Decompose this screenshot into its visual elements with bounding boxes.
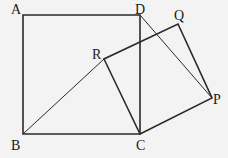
label-c: C [136, 138, 145, 153]
label-p: P [213, 92, 221, 107]
geometry-diagram: A D Q R P B C [0, 0, 228, 158]
segment-dp [140, 15, 212, 98]
label-b: B [11, 138, 20, 153]
segment-br [23, 59, 104, 134]
label-q: Q [174, 8, 184, 23]
label-a: A [11, 2, 22, 17]
label-r: R [92, 47, 102, 62]
square-abcd [23, 15, 140, 134]
label-d: D [135, 2, 145, 17]
